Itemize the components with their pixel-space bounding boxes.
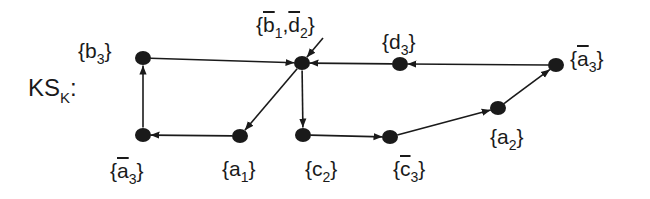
structure-title: KSK: [28,76,77,100]
label-d3: {d3} [382,31,416,52]
edge-b1d2-to-c2 [302,70,303,127]
edge-a2-to-abar3_r [504,69,550,103]
edge-b1d2-to-a1 [245,69,297,131]
edge-a1-to-abar3_l [150,135,232,136]
edge-b3-to-b1d2 [150,58,294,63]
edge-layer [143,38,550,137]
label-b3: {b3} [78,40,112,61]
state-node-a1 [232,129,248,143]
state-node-c2 [295,128,311,142]
edge-abar3_r-to-d3 [407,64,548,65]
state-node-abar3_l [135,128,151,142]
state-node-abar3_r [548,58,564,72]
state-node-b3 [135,51,151,65]
edge-d3-to-b1d2 [309,63,392,64]
initial-state-arrow [307,38,323,57]
state-node-cbar3 [382,130,398,144]
label-cbar3: {c3} [393,158,425,179]
state-node-d3 [392,57,408,71]
label-c2: {c2} [305,158,337,179]
state-node-a2 [490,101,506,115]
label-abar3-right: {a3} [570,48,604,69]
state-node-b1d2 [294,56,310,70]
label-a2: {a2} [490,126,524,147]
label-b1-d2: {b1,d2} [256,14,315,35]
label-a1: {a1} [222,158,256,179]
edge-cbar3-to-a2 [397,110,491,135]
label-abar3-left: {a3} [110,160,144,181]
edge-c2-to-cbar3 [310,135,382,137]
